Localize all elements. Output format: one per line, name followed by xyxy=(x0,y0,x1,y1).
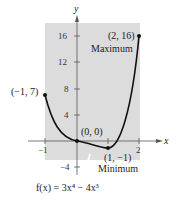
point-origin xyxy=(75,139,79,143)
point-minimum xyxy=(106,146,110,150)
x-axis-label: x xyxy=(164,136,168,146)
y-tick-8: 8 xyxy=(64,85,69,94)
plot-canvas xyxy=(0,0,180,207)
point-maximum xyxy=(137,34,141,38)
y-axis-label: y xyxy=(74,4,78,14)
point-label-origin: (0, 0) xyxy=(81,127,103,137)
y-tick-16: 16 xyxy=(58,32,67,41)
x-tick-2: 2 xyxy=(136,146,141,155)
y-tick-4: 4 xyxy=(64,111,69,120)
point-label-maximum: (2, 16) xyxy=(108,31,135,41)
minimum-annotation: Minimum xyxy=(98,164,138,174)
y-tick-neg4: −4 xyxy=(60,163,70,172)
point-left-endpoint xyxy=(43,93,47,97)
maximum-annotation: Maximum xyxy=(91,44,133,54)
function-label: f(x) = 3x⁴ − 4x³ xyxy=(36,183,99,193)
y-tick-12: 12 xyxy=(58,58,67,67)
point-label-minimum: (1, −1) xyxy=(104,153,131,163)
point-label-left: (−1, 7) xyxy=(11,87,38,97)
x-tick-neg1: −1 xyxy=(38,146,48,155)
